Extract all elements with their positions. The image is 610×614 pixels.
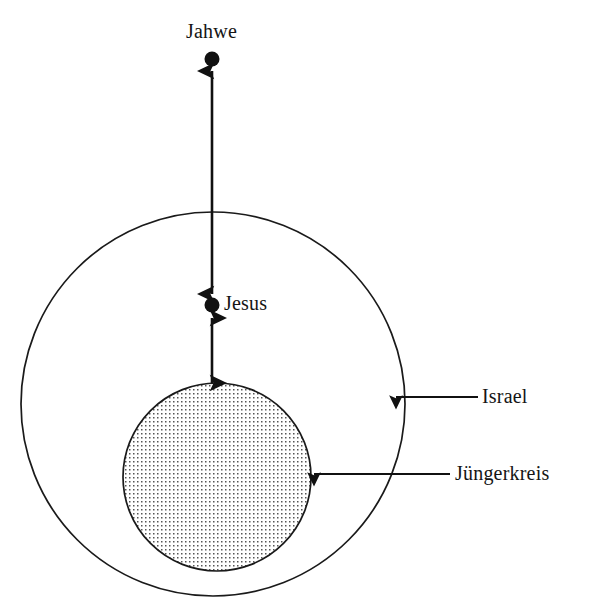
jesus-label: Jesus bbox=[224, 292, 267, 315]
juengerkreis-label: Jüngerkreis bbox=[455, 462, 549, 485]
jahwe-label: Jahwe bbox=[186, 20, 237, 43]
diagram-canvas bbox=[0, 0, 610, 614]
israel-label: Israel bbox=[482, 385, 528, 408]
juengerkreis-circle bbox=[123, 383, 311, 571]
jesus-node-dot bbox=[205, 298, 220, 313]
jahwe-node-dot bbox=[205, 52, 220, 67]
